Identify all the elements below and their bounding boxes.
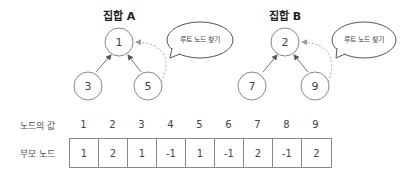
index-2: 2 xyxy=(98,119,127,130)
set-b: 집합 B 2 7 9 루트 노드 찾기 xyxy=(238,9,396,100)
node-5-label: 5 xyxy=(145,80,152,93)
index-6: 6 xyxy=(214,119,243,130)
parent-cell-3: 1 xyxy=(128,139,157,167)
parent-cell-7: 2 xyxy=(244,139,273,167)
node-3-label: 3 xyxy=(85,80,92,93)
node-1-label: 1 xyxy=(116,36,123,49)
parent-cell-9: 2 xyxy=(302,139,331,167)
index-8: 8 xyxy=(272,119,301,130)
parent-cell-8: -1 xyxy=(273,139,302,167)
edge-5-to-1 xyxy=(128,55,141,72)
speech-bubble-b: 루트 노드 찾기 xyxy=(332,22,396,58)
edge-3-to-1 xyxy=(96,55,111,72)
bubble-b-text: 루트 노드 찾기 xyxy=(344,35,384,44)
union-find-diagram: 집합 A 1 3 5 루트 노드 찾기 집합 B 2 7 9 루트 노드 찾기 xyxy=(0,0,400,110)
set-a-title: 집합 A xyxy=(103,9,136,23)
index-5: 5 xyxy=(185,119,214,130)
parent-cell-5: 1 xyxy=(186,139,215,167)
speech-bubble-a: 루트 노드 찾기 xyxy=(167,22,233,58)
set-b-title: 집합 B xyxy=(269,9,301,23)
index-3: 3 xyxy=(127,119,156,130)
index-4: 4 xyxy=(156,119,185,130)
parent-cell-4: -1 xyxy=(157,139,186,167)
set-a: 집합 A 1 3 5 루트 노드 찾기 xyxy=(74,9,233,100)
index-1: 1 xyxy=(69,119,98,130)
node-7-label: 7 xyxy=(249,80,256,93)
parent-cell-1: 1 xyxy=(70,139,99,167)
index-row-label: 노드의 값 xyxy=(20,119,55,132)
parent-cell-6: -1 xyxy=(215,139,244,167)
edge-7-to-2 xyxy=(263,55,277,72)
bubble-a-text: 루트 노드 찾기 xyxy=(180,35,220,44)
parent-row-label: 부모 노드 xyxy=(20,147,55,160)
node-2-label: 2 xyxy=(282,36,289,49)
index-7: 7 xyxy=(243,119,272,130)
node-9-label: 9 xyxy=(312,80,319,93)
index-9: 9 xyxy=(301,119,330,130)
parent-array: 1 2 1 -1 1 -1 2 -1 2 xyxy=(69,138,332,168)
parent-cell-2: 2 xyxy=(99,139,128,167)
edge-9-to-2 xyxy=(294,55,308,72)
